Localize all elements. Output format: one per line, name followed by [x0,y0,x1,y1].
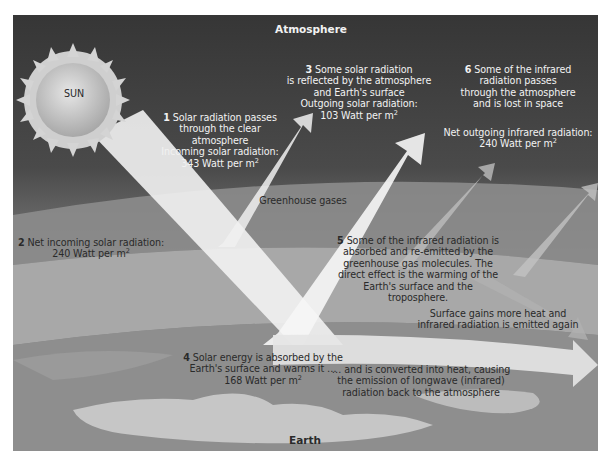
step-3-label: 3Some solar radiation is reflected by th… [284,64,434,121]
step-5-label: 5Some of the infrared radiation is absor… [333,235,503,303]
step-6-label: 6Some of the infrared radiation passes t… [453,64,583,110]
converted-heat-label: … and is converted into heat, causing th… [331,364,511,398]
earth-title: Earth [289,434,321,446]
sun-label: SUN [53,88,95,99]
sun-icon [16,43,130,157]
greenhouse-effect-diagram: Atmosphere SUN 1Solar radiation passes t… [13,15,598,451]
step-4-label: 4Solar energy is absorbed by the Earth's… [183,352,343,386]
net-outgoing-label: Net outgoing infrared radiation: 240 Wat… [443,127,593,150]
greenhouse-gases-label: Greenhouse gases [253,195,353,206]
atmosphere-title: Atmosphere [275,23,347,35]
step-2-label: 2Net incoming solar radiation: 240 Watt … [13,237,171,260]
surface-gains-label: Surface gains more heat and infrared rad… [413,308,583,331]
step-1-label: 1Solar radiation passes through the clea… [155,112,285,169]
